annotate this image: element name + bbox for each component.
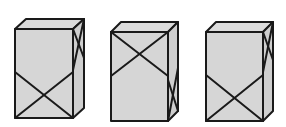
top-face — [111, 22, 178, 32]
box-3 — [206, 22, 273, 121]
box-2 — [111, 22, 178, 121]
top-face — [206, 22, 273, 32]
boxes-diagram — [0, 0, 286, 127]
diagram-canvas — [0, 0, 286, 127]
front-face — [111, 32, 168, 121]
front-face — [15, 29, 73, 118]
box-1 — [15, 19, 84, 118]
front-face — [206, 32, 263, 121]
